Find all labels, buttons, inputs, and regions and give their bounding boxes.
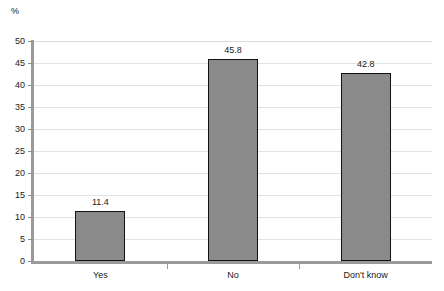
y-axis-tick: [28, 85, 32, 86]
y-axis-tick-label: 25: [0, 147, 25, 156]
y-axis-tick: [28, 261, 32, 262]
category-label: Yes: [45, 270, 155, 280]
y-axis-tick: [28, 239, 32, 240]
y-axis-tick: [28, 41, 32, 42]
bar: [208, 59, 258, 261]
y-axis-tick: [28, 151, 32, 152]
y-axis-tick-label: 35: [0, 103, 25, 112]
y-axis-tick-label: 30: [0, 125, 25, 134]
y-axis-tick-label: 20: [0, 169, 25, 178]
bar-chart: % 0510152025303540455011.4Yes45.8No42.8D…: [0, 0, 444, 291]
y-axis-tick: [28, 195, 32, 196]
bar: [75, 211, 125, 261]
category-label: Don't know: [311, 270, 421, 280]
x-axis-line: [31, 261, 432, 264]
y-axis-tick-label: 15: [0, 191, 25, 200]
y-axis-tick: [28, 63, 32, 64]
y-axis-tick-label: 50: [0, 37, 25, 46]
y-axis-tick: [28, 129, 32, 130]
category-label: No: [178, 270, 288, 280]
y-axis-tick: [28, 107, 32, 108]
bar-value-label: 45.8: [193, 45, 273, 55]
gridline: [34, 41, 432, 42]
y-axis-tick: [28, 173, 32, 174]
y-axis-tick-label: 10: [0, 213, 25, 222]
bar-value-label: 42.8: [326, 59, 406, 69]
bar-value-label: 11.4: [60, 197, 140, 207]
x-axis-tick: [299, 264, 300, 269]
bar: [341, 73, 391, 261]
x-axis-tick: [167, 264, 168, 269]
y-axis-tick-label: 5: [0, 235, 25, 244]
y-axis-tick-label: 0: [0, 257, 25, 266]
y-axis-tick-label: 40: [0, 81, 25, 90]
y-axis-tick: [28, 217, 32, 218]
y-axis-tick-label: 45: [0, 59, 25, 68]
y-axis-unit-label: %: [11, 6, 19, 16]
